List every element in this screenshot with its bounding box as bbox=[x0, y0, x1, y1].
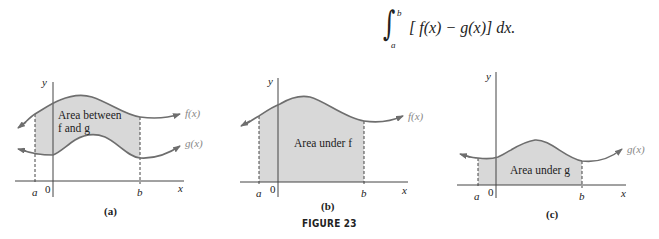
area-between-label-line2: f and g bbox=[58, 122, 90, 135]
tick-b: b bbox=[361, 187, 367, 199]
f-label: f(x) bbox=[408, 110, 423, 122]
area-under-g bbox=[478, 140, 582, 185]
tick-origin: 0 bbox=[270, 183, 276, 195]
subfigure-label-c: (c) bbox=[546, 208, 558, 220]
area-under-g-label: Area under g bbox=[510, 164, 570, 177]
x-axis-label: x bbox=[178, 182, 183, 194]
tick-origin: 0 bbox=[488, 186, 494, 198]
tick-a: a bbox=[474, 190, 480, 202]
g-label: g(x) bbox=[185, 137, 203, 149]
x-axis-label: x bbox=[621, 187, 626, 199]
tick-a: a bbox=[256, 187, 262, 199]
x-axis-label: x bbox=[402, 184, 407, 196]
panel-c bbox=[457, 72, 626, 198]
y-axis-label: y bbox=[268, 75, 273, 87]
tick-b: b bbox=[137, 186, 143, 198]
y-axis-label: y bbox=[42, 76, 47, 88]
panel-a bbox=[15, 82, 184, 197]
f-label: f(x) bbox=[185, 107, 200, 119]
tick-origin: 0 bbox=[45, 183, 51, 195]
g-label: g(x) bbox=[627, 143, 645, 155]
area-between-label: Area between bbox=[58, 109, 122, 122]
subfigure-label-a: (a) bbox=[104, 205, 117, 217]
tick-a: a bbox=[32, 186, 38, 198]
area-under-f-label: Area under f bbox=[294, 137, 352, 150]
subfigure-label-b: (b) bbox=[321, 200, 334, 212]
tick-b: b bbox=[579, 190, 585, 202]
figure-caption: FIGURE 23 bbox=[302, 217, 357, 229]
y-axis-label: y bbox=[486, 70, 491, 82]
